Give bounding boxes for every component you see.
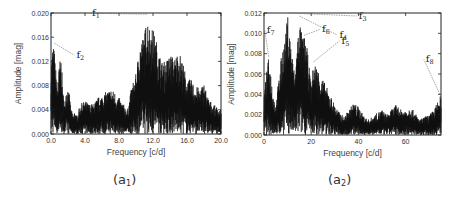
spectrum-trace [264,17,441,135]
caption-a2-close: ) [346,172,351,187]
y-tick-label: 0.000 [31,131,49,138]
y-tick-label: 0.012 [31,58,49,65]
x-tick-label: 4.0 [80,137,90,144]
y-tick-label: 0.012 [244,10,262,17]
x-axis-label: Frequency [c/d] [107,147,166,157]
plot-a2-amplitude-spectrum: 02040600.0000.0020.0040.0060.0080.0100.0… [226,10,441,159]
y-tick-label: 0.020 [31,10,49,17]
peak-annotation-f7: f7 [267,24,275,37]
y-tick-label: 0.004 [31,106,49,113]
x-tick-label: 16.0 [180,137,194,144]
y-tick-label: 0.010 [244,30,262,37]
x-tick-label: 40 [355,138,363,145]
y-axis-label: Amplitude [mag] [13,43,23,104]
y-tick-label: 0.008 [31,82,49,89]
caption-a2: (a2) [328,172,351,188]
spectrum-trace [51,27,221,134]
y-tick-label: 0.016 [31,34,49,41]
x-tick-label: 12.0 [146,137,160,144]
figure-canvas: 0.04.08.012.016.020.00.0000.0040.0080.01… [0,0,463,202]
x-tick-label: 8.0 [114,137,124,144]
x-tick-label: 20.0 [214,137,228,144]
caption-a1: (a1) [113,172,136,188]
peak-annotation-f1: f1 [92,7,100,20]
x-axis-label: Frequency [c/d] [323,148,382,158]
y-tick-label: 0.006 [244,71,262,78]
peak-annotation-f3: f3 [359,10,367,23]
y-tick-label: 0.008 [244,50,262,57]
caption-a1-close: ) [131,172,136,187]
x-tick-label: 0.0 [46,137,56,144]
peak-annotation-f2: f2 [76,49,84,62]
plot-a1-amplitude-spectrum: 0.04.08.012.016.020.00.0000.0040.0080.01… [13,7,228,157]
y-tick-label: 0.002 [244,111,262,118]
peak-annotation-f6: f6 [322,23,330,36]
y-axis-label: Amplitude [mag] [226,43,236,104]
x-tick-label: 0 [262,138,266,145]
peak-annotation-f8: f8 [426,53,434,66]
y-tick-label: 0.004 [244,91,262,98]
x-tick-label: 20 [307,138,315,145]
caption-a1-text: (a [113,172,126,187]
x-tick-label: 60 [402,138,410,145]
caption-a2-text: (a [328,172,341,187]
y-tick-label: 0.000 [244,132,262,139]
